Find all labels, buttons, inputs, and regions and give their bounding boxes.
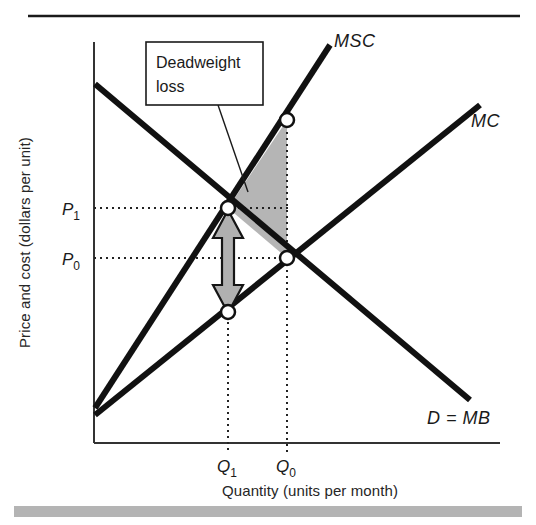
callout-line-1: Deadweight xyxy=(156,54,241,71)
bottom-decorative-bar xyxy=(14,506,522,517)
callout-leader-line xyxy=(218,105,248,192)
demand-curve-label: D = MB xyxy=(427,408,491,428)
callout-line-2: loss xyxy=(156,78,184,95)
y-tick-p0: P0 xyxy=(62,250,80,273)
y-tick-p1: P1 xyxy=(62,200,80,223)
deadweight-loss-callout-box xyxy=(146,42,263,105)
point-efficient-outcome xyxy=(221,201,235,215)
point-msc-at-q0 xyxy=(280,113,294,127)
x-tick-q1: Q1 xyxy=(217,457,237,480)
point-market-outcome xyxy=(280,251,294,265)
x-tick-q0: Q0 xyxy=(276,457,296,480)
x-axis-title: Quantity (units per month) xyxy=(222,482,398,499)
msc-curve-label: MSC xyxy=(334,31,376,51)
economics-figure: Deadweight loss MSC MC D = MB P1 P0 Q1 Q… xyxy=(0,0,536,525)
y-axis-title: Price and cost (dollars per unit) xyxy=(16,137,33,348)
point-mc-at-q1 xyxy=(221,305,235,319)
mc-curve-label: MC xyxy=(471,111,500,131)
deadweight-loss-diagram: Deadweight loss MSC MC D = MB P1 P0 Q1 Q… xyxy=(0,0,536,525)
